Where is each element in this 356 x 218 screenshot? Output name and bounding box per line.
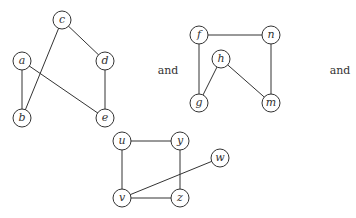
node-label: w: [215, 151, 225, 164]
conjunction-text: and: [158, 64, 179, 77]
node-label: c: [59, 13, 65, 26]
graph-1-edges: [22, 20, 105, 118]
node-g: g: [190, 94, 208, 112]
graph-2-edges: [199, 35, 271, 103]
node-label: n: [267, 28, 274, 41]
node-label: g: [195, 96, 202, 109]
node-v: v: [113, 189, 131, 207]
node-label: y: [176, 134, 184, 147]
node-b: b: [13, 109, 31, 127]
conjunction-text: and: [330, 64, 351, 77]
graph-1-nodes: abcde: [13, 11, 114, 127]
graph-3-edges: [122, 141, 220, 198]
node-a: a: [13, 52, 31, 70]
node-m: m: [262, 94, 280, 112]
node-label: b: [18, 111, 25, 124]
edge-v-w: [122, 158, 220, 198]
node-d: d: [96, 52, 114, 70]
node-label: d: [101, 54, 108, 67]
node-h: h: [212, 50, 230, 68]
nodes-layer: abcdefnhgmuywvz: [13, 11, 280, 207]
node-n: n: [262, 26, 280, 44]
edge-a-e: [22, 61, 105, 118]
graph-3-nodes: uywvz: [113, 132, 229, 207]
node-y: y: [171, 132, 189, 150]
node-label: v: [119, 191, 126, 204]
node-z: z: [171, 189, 189, 207]
node-label: m: [266, 96, 276, 109]
node-c: c: [53, 11, 71, 29]
node-label: e: [102, 111, 109, 124]
node-u: u: [113, 132, 131, 150]
node-e: e: [96, 109, 114, 127]
node-label: z: [176, 191, 183, 204]
graph-2-nodes: fnhgm: [190, 26, 280, 112]
edges-layer: [22, 20, 271, 198]
node-label: h: [217, 52, 224, 65]
edge-h-m: [221, 59, 271, 103]
node-w: w: [211, 149, 229, 167]
edge-c-b: [22, 20, 62, 118]
node-f: f: [190, 26, 208, 44]
graph-diagram: abcdefnhgmuywvz andand: [0, 0, 356, 218]
node-label: a: [19, 54, 26, 67]
conjunction-layer: andand: [158, 64, 351, 77]
node-label: u: [118, 134, 125, 147]
